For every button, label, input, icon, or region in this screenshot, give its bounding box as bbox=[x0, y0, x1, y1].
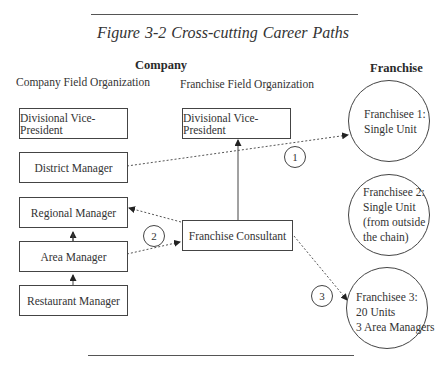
franchisee-1-line-2: Single Unit bbox=[364, 122, 426, 137]
franchisee-2-line-3: (from outside bbox=[363, 215, 425, 230]
franchisee-2-line-2: Single Unit bbox=[363, 200, 425, 215]
path-number-2: 2 bbox=[143, 225, 165, 247]
box-restaurant-manager: Restaurant Manager bbox=[19, 285, 128, 316]
franchisee-2-text: Franchisee 2: Single Unit (from outside … bbox=[363, 185, 425, 245]
franchisee-3-text: Franchisee 3: 20 Units 3 Area Managers bbox=[356, 290, 435, 335]
franchisee-2-line-1: Franchisee 2: bbox=[363, 185, 425, 200]
franchisee-2-line-4: the chain) bbox=[363, 230, 425, 245]
franchisee-3-line-3: 3 Area Managers bbox=[356, 320, 435, 335]
path-number-1: 1 bbox=[284, 146, 306, 168]
franchisee-1-line-1: Franchisee 1: bbox=[364, 107, 426, 122]
path-number-3: 3 bbox=[311, 285, 333, 307]
box-area-manager: Area Manager bbox=[19, 241, 128, 272]
bottom-rule bbox=[88, 355, 354, 356]
path-2-consultant-to-regional bbox=[129, 208, 181, 222]
box-franchise-consultant: Franchise Consultant bbox=[182, 220, 293, 251]
franchisee-3-line-2: 20 Units bbox=[356, 305, 435, 320]
franchisee-3-line-1: Franchisee 3: bbox=[356, 290, 435, 305]
box-franchise-dvp: Divisional Vice-President bbox=[182, 108, 291, 139]
box-district-manager: District Manager bbox=[19, 152, 128, 183]
box-company-dvp: Divisional Vice-President bbox=[19, 108, 128, 139]
franchisee-1-text: Franchisee 1: Single Unit bbox=[364, 107, 426, 137]
box-regional-manager: Regional Manager bbox=[19, 197, 128, 228]
